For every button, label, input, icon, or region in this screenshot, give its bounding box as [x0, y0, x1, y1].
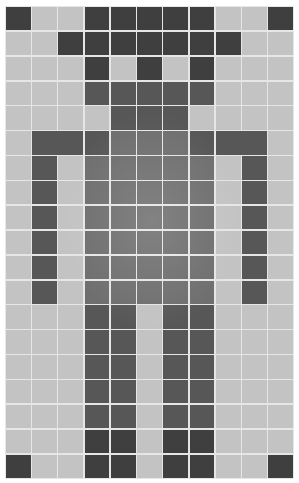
grid-cell	[242, 380, 267, 403]
grid-cell	[268, 405, 293, 428]
grid-cell	[58, 430, 83, 453]
grid-cell	[163, 330, 188, 353]
grid-cell	[32, 355, 57, 378]
grid-cell	[58, 405, 83, 428]
grid-cell	[137, 305, 162, 328]
grid-cell	[242, 82, 267, 105]
grid-cell	[6, 405, 31, 428]
grid-cell	[268, 156, 293, 179]
grid-cell	[216, 355, 241, 378]
grid-cell	[268, 455, 293, 478]
grid-cell	[6, 206, 31, 229]
grid-cell	[137, 131, 162, 154]
grid-cell	[242, 231, 267, 254]
grid-cell	[111, 106, 136, 129]
grid-cell	[58, 7, 83, 30]
grid-cell	[32, 57, 57, 80]
grid-cell	[111, 156, 136, 179]
grid-cell	[58, 330, 83, 353]
grid-cell	[85, 156, 110, 179]
grid-cell	[268, 256, 293, 279]
grid-cell	[111, 256, 136, 279]
grid-cell	[190, 82, 215, 105]
grid-cell	[58, 455, 83, 478]
grid-cell	[268, 305, 293, 328]
grid-cell	[268, 206, 293, 229]
grid-cell	[32, 82, 57, 105]
grid-cell	[242, 305, 267, 328]
grid-cell	[32, 181, 57, 204]
grid-cell	[6, 281, 31, 304]
grid-cell	[216, 7, 241, 30]
grid-cell	[216, 281, 241, 304]
grid-cell	[190, 305, 215, 328]
grid-cell	[190, 156, 215, 179]
grid-cell	[190, 330, 215, 353]
grid-cell	[111, 7, 136, 30]
grid-cell	[216, 256, 241, 279]
grid-cell	[111, 380, 136, 403]
grid-cell	[216, 82, 241, 105]
grid-cell	[216, 405, 241, 428]
grid-cell	[111, 131, 136, 154]
grid-cell	[58, 355, 83, 378]
grid-cell	[216, 57, 241, 80]
grid-cell	[58, 380, 83, 403]
grid-cell	[268, 430, 293, 453]
grid-cell	[163, 181, 188, 204]
grid-cell	[137, 82, 162, 105]
grid-cell	[32, 156, 57, 179]
grid-cell	[85, 57, 110, 80]
grid-cell	[216, 181, 241, 204]
grid-cell	[32, 206, 57, 229]
grid-cell	[58, 305, 83, 328]
grid-cell	[85, 330, 110, 353]
grid-cell	[6, 106, 31, 129]
grid-cell	[163, 57, 188, 80]
grid-cell	[85, 380, 110, 403]
grid-cell	[6, 131, 31, 154]
grid-cell	[111, 57, 136, 80]
grid-cell	[111, 206, 136, 229]
grid-cell	[32, 106, 57, 129]
grid-cell	[58, 181, 83, 204]
grid-cell	[32, 281, 57, 304]
grid-cell	[137, 181, 162, 204]
grid-cell	[216, 455, 241, 478]
grid-cell	[242, 355, 267, 378]
grid-cell	[137, 57, 162, 80]
grid-cell	[137, 281, 162, 304]
grid-cell	[32, 32, 57, 55]
grid-cell	[32, 7, 57, 30]
grid-cell	[190, 380, 215, 403]
grid-cell	[163, 455, 188, 478]
grid-cell	[137, 355, 162, 378]
grid-cell	[163, 256, 188, 279]
grid-cell	[268, 231, 293, 254]
grid-cell	[242, 32, 267, 55]
grid-cell	[163, 281, 188, 304]
grid-cell	[242, 106, 267, 129]
grid-cell	[85, 181, 110, 204]
grid-cell	[190, 206, 215, 229]
grid-cell	[190, 405, 215, 428]
grid-cell	[137, 430, 162, 453]
grid-cell	[58, 32, 83, 55]
grid-cell	[190, 281, 215, 304]
grid-cell	[242, 206, 267, 229]
grid-cell	[85, 7, 110, 30]
grid-cell	[190, 355, 215, 378]
grid-cell	[6, 231, 31, 254]
grid-cell	[216, 206, 241, 229]
grid-cell	[111, 405, 136, 428]
grid-cell	[242, 330, 267, 353]
grid-cell	[163, 156, 188, 179]
grid-cell	[163, 82, 188, 105]
grid-cell	[32, 455, 57, 478]
grid-cell	[242, 156, 267, 179]
grid-cell	[137, 455, 162, 478]
grid-cell	[137, 156, 162, 179]
grid-cell	[216, 380, 241, 403]
grid-cell	[6, 181, 31, 204]
grid-cell	[32, 231, 57, 254]
